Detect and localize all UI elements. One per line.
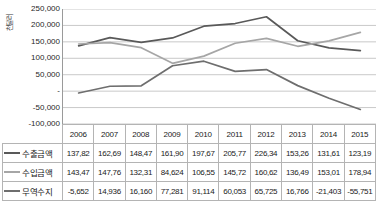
table-cell-수출금액-2015: 123,19 bbox=[344, 144, 375, 163]
table-year-header-2009: 2009 bbox=[156, 125, 187, 144]
table-cell-무역수지-2006: -5,652 bbox=[63, 182, 94, 201]
table-year-header-2006: 2006 bbox=[63, 125, 94, 144]
table-cell-수출금액-2009: 161,90 bbox=[156, 144, 187, 163]
table-row: 무역수지-5,65214,93616,16077,28191,11460,053… bbox=[3, 182, 376, 201]
table-cell-수출금액-2013: 153,26 bbox=[282, 144, 313, 163]
table-cell-무역수지-2011: 60,053 bbox=[219, 182, 250, 201]
table-cell-수출금액-2006: 137,82 bbox=[63, 144, 94, 163]
table-cell-무역수지-2014: -21,403 bbox=[313, 182, 344, 201]
y-axis-tick-250000: 250,000 bbox=[16, 5, 60, 13]
y-axis-tick-100000: 100,000 bbox=[16, 54, 60, 62]
table-cell-수입금액-2012: 160,62 bbox=[250, 163, 281, 182]
legend-label: 수출금액 bbox=[22, 147, 53, 159]
table-cell-수입금액-2015: 178,94 bbox=[344, 163, 375, 182]
table-cell-수입금액-2010: 106,55 bbox=[188, 163, 219, 182]
plot-area bbox=[62, 9, 375, 124]
legend-item-무역수지: 무역수지 bbox=[3, 182, 63, 201]
legend-label: 수입금액 bbox=[22, 166, 53, 178]
table-cell-수출금액-2007: 162,69 bbox=[94, 144, 125, 163]
table-year-header-2008: 2008 bbox=[125, 125, 156, 144]
table-year-header-2012: 2012 bbox=[250, 125, 281, 144]
table-cell-수출금액-2010: 197,67 bbox=[188, 144, 219, 163]
chart-figure: 천달러 250,000200,000150,000100,00050,000--… bbox=[0, 0, 378, 206]
legend-swatch-icon bbox=[4, 171, 20, 173]
y-axis-tick-0: - bbox=[16, 87, 60, 95]
table-cell-수입금액-2013: 136,49 bbox=[282, 163, 313, 182]
table-header: 2006200720082009201020112012201320142015 bbox=[3, 125, 376, 144]
table-year-header-2015: 2015 bbox=[344, 125, 375, 144]
table-year-header-2014: 2014 bbox=[313, 125, 344, 144]
legend-swatch-icon bbox=[4, 152, 20, 154]
table-year-header-2013: 2013 bbox=[282, 125, 313, 144]
legend-item-수출금액: 수출금액 bbox=[3, 144, 63, 163]
table-row: 수입금액143,47147,76132,3184,624106,55145,72… bbox=[3, 163, 376, 182]
table-cell-무역수지-2009: 77,281 bbox=[156, 182, 187, 201]
table-cell-무역수지-2010: 91,114 bbox=[188, 182, 219, 201]
y-axis-tick-150000: 150,000 bbox=[16, 38, 60, 46]
table-year-header-2010: 2010 bbox=[188, 125, 219, 144]
table-cell-수입금액-2007: 147,76 bbox=[94, 163, 125, 182]
table-cell-수입금액-2009: 84,624 bbox=[156, 163, 187, 182]
chart-data-table: 2006200720082009201020112012201320142015… bbox=[2, 124, 376, 201]
table-cell-수출금액-2014: 131,61 bbox=[313, 144, 344, 163]
table-cell-무역수지-2007: 14,936 bbox=[94, 182, 125, 201]
series-line-무역수지 bbox=[79, 61, 361, 109]
legend-swatch-icon bbox=[4, 190, 20, 192]
y-axis-tick-labels: 250,000200,000150,000100,00050,000--50,0… bbox=[16, 9, 60, 128]
table-body: 수출금액137,82162,69148,47161,90197,67205,77… bbox=[3, 144, 376, 201]
table-cell-수출금액-2011: 205,77 bbox=[219, 144, 250, 163]
table-year-header-2007: 2007 bbox=[94, 125, 125, 144]
table-cell-수입금액-2011: 145,72 bbox=[219, 163, 250, 182]
table-corner-cell bbox=[3, 125, 63, 144]
y-axis-tick-50000: 50,000 bbox=[16, 71, 60, 79]
table-cell-수입금액-2008: 132,31 bbox=[125, 163, 156, 182]
table-cell-수출금액-2012: 226,34 bbox=[250, 144, 281, 163]
table-cell-무역수지-2012: 65,725 bbox=[250, 182, 281, 201]
table-header-row: 2006200720082009201020112012201320142015 bbox=[3, 125, 376, 144]
table-cell-수출금액-2008: 148,47 bbox=[125, 144, 156, 163]
table-cell-수입금액-2014: 153,01 bbox=[313, 163, 344, 182]
legend-item-수입금액: 수입금액 bbox=[3, 163, 63, 182]
table-year-header-2011: 2011 bbox=[219, 125, 250, 144]
table-cell-무역수지-2008: 16,160 bbox=[125, 182, 156, 201]
table-row: 수출금액137,82162,69148,47161,90197,67205,77… bbox=[3, 144, 376, 163]
table-cell-무역수지-2013: 16,766 bbox=[282, 182, 313, 201]
y-axis-tick--50000: -50,000 bbox=[16, 104, 60, 112]
legend-label: 무역수지 bbox=[22, 185, 53, 197]
table-cell-수입금액-2006: 143,47 bbox=[63, 163, 94, 182]
chart-lines-svg bbox=[63, 9, 376, 124]
table-cell-무역수지-2015: -55,751 bbox=[344, 182, 375, 201]
series-line-수출금액 bbox=[79, 17, 361, 51]
y-axis-tick-200000: 200,000 bbox=[16, 21, 60, 29]
